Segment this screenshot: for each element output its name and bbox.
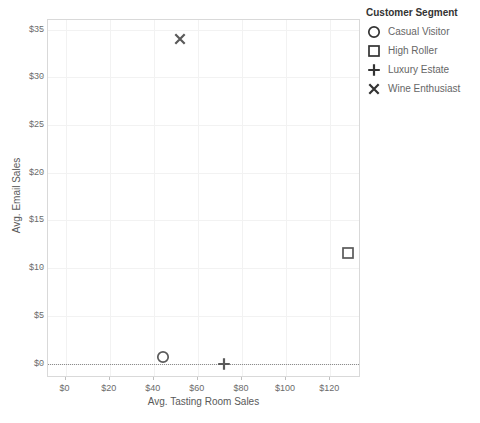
gridline-horizontal — [48, 268, 359, 269]
x-tick-label: $40 — [130, 383, 176, 393]
x-tick-mark — [153, 377, 154, 380]
data-point-high-roller[interactable] — [340, 245, 356, 261]
x-tick-label: $80 — [218, 383, 264, 393]
gridline-vertical — [242, 20, 243, 376]
gridline-horizontal — [48, 220, 359, 221]
y-tick-label: $30 — [4, 71, 44, 81]
gridline-horizontal — [48, 125, 359, 126]
x-tick-mark — [285, 377, 286, 380]
y-tick-mark — [41, 172, 44, 173]
x-tick-mark — [329, 377, 330, 380]
data-point-wine-enthusiast[interactable] — [172, 31, 188, 47]
y-tick-mark — [41, 76, 44, 77]
x-tick-label: $20 — [86, 383, 132, 393]
legend: Customer Segment Casual VisitorHigh Roll… — [366, 7, 478, 98]
gridline-vertical — [330, 20, 331, 376]
y-tick-label: $35 — [4, 24, 44, 34]
legend-item-wine-enthusiast[interactable]: Wine Enthusiast — [366, 79, 478, 98]
legend-item-label: Casual Visitor — [388, 26, 450, 37]
circle-marker-icon — [366, 24, 382, 40]
y-tick-mark — [41, 267, 44, 268]
gridline-vertical — [154, 20, 155, 376]
y-axis-title: Avg. Email Sales — [11, 116, 22, 276]
gridline-vertical — [66, 20, 67, 376]
reference-line — [48, 364, 359, 365]
legend-item-label: Luxury Estate — [388, 64, 449, 75]
y-axis: $0$5$10$15$20$25$30$35 — [0, 19, 44, 377]
gridline-vertical — [198, 20, 199, 376]
data-point-casual-visitor[interactable] — [155, 349, 171, 365]
legend-title: Customer Segment — [366, 7, 478, 18]
y-tick-label: $5 — [4, 310, 44, 320]
data-point-luxury-estate[interactable] — [216, 356, 232, 372]
cross-marker-icon — [366, 81, 382, 97]
gridline-vertical — [110, 20, 111, 376]
gridline-horizontal — [48, 173, 359, 174]
x-tick-label: $120 — [306, 383, 352, 393]
x-tick-label: $100 — [262, 383, 308, 393]
x-tick-mark — [241, 377, 242, 380]
x-tick-label: $60 — [174, 383, 220, 393]
legend-item-label: Wine Enthusiast — [388, 83, 460, 94]
x-tick-label: $0 — [42, 383, 88, 393]
scatter-chart: $0$5$10$15$20$25$30$35 Avg. Email Sales … — [0, 0, 480, 423]
y-tick-mark — [41, 363, 44, 364]
legend-items: Casual VisitorHigh RollerLuxury EstateWi… — [366, 22, 478, 98]
y-tick-mark — [41, 219, 44, 220]
y-tick-mark — [41, 29, 44, 30]
plot-area — [47, 19, 360, 377]
y-tick-mark — [41, 315, 44, 316]
x-tick-mark — [65, 377, 66, 380]
plus-marker-icon — [366, 62, 382, 78]
y-tick-mark — [41, 124, 44, 125]
y-tick-label: $0 — [4, 358, 44, 368]
gridline-horizontal — [48, 77, 359, 78]
legend-item-casual-visitor[interactable]: Casual Visitor — [366, 22, 478, 41]
gridline-vertical — [286, 20, 287, 376]
square-marker-icon — [366, 43, 382, 59]
gridline-horizontal — [48, 316, 359, 317]
gridline-horizontal — [48, 30, 359, 31]
legend-item-high-roller[interactable]: High Roller — [366, 41, 478, 60]
x-tick-mark — [109, 377, 110, 380]
legend-item-label: High Roller — [388, 45, 437, 56]
legend-item-luxury-estate[interactable]: Luxury Estate — [366, 60, 478, 79]
x-tick-mark — [197, 377, 198, 380]
x-axis-title: Avg. Tasting Room Sales — [47, 396, 360, 407]
